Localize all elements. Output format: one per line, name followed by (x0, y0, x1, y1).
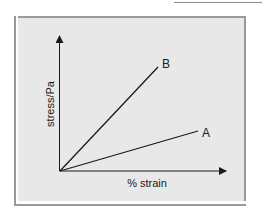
x-axis-label: % strain (127, 177, 167, 189)
series-a-line (60, 131, 198, 171)
series-b-line (60, 67, 158, 171)
series-b-label: B (162, 57, 170, 71)
series-a-label: A (202, 126, 210, 140)
stress-strain-diagram: B A % strain stress/Pa (0, 0, 262, 218)
y-axis-label: stress/Pa (44, 80, 56, 127)
